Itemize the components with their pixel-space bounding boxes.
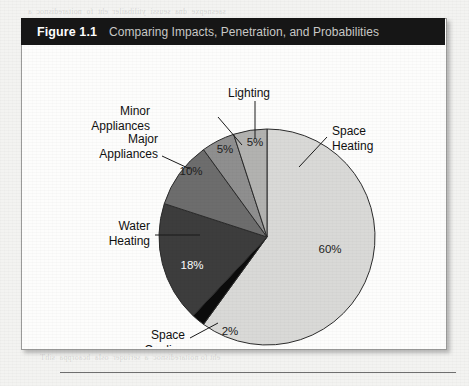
category-label-space-cooling-line2: Cooling <box>144 343 185 347</box>
category-label-major-appliances-line1: Major <box>128 132 158 146</box>
slice-value-minor-appliances: 5% <box>217 143 234 155</box>
figure-header-bar: Figure 1.1 Comparing Impacts, Penetratio… <box>21 18 445 45</box>
category-label-water-heating-line2: Heating <box>109 234 150 248</box>
slice-value-water-heating: 18% <box>180 259 203 271</box>
category-label-space-heating-line1: Space <box>332 124 366 138</box>
pie-slice-group <box>159 129 375 345</box>
category-label-minor-appliances-line2: Appliances <box>91 119 150 133</box>
page-horizontal-rule <box>60 372 456 373</box>
category-label-space-heating-line2: Heating <box>332 139 373 153</box>
category-label-lighting: Lighting <box>228 86 270 100</box>
figure-caption: Comparing Impacts, Penetration, and Prob… <box>109 25 379 39</box>
category-label-minor-appliances-line1: Minor <box>120 104 150 118</box>
figure-body: 60% 2% 18% 10% 5% 5% Space Heating Minor… <box>22 45 444 347</box>
slice-value-space-heating: 60% <box>318 243 341 255</box>
figure-number: Figure 1.1 <box>37 25 97 39</box>
slice-value-space-cooling: 2% <box>222 325 239 337</box>
category-label-space-cooling-line1: Space <box>151 328 185 342</box>
slice-value-major-appliances: 10% <box>179 165 202 177</box>
pie-chart: 60% 2% 18% 10% 5% 5% Space Heating Minor… <box>22 45 444 347</box>
bleed-through-text-bottom: eht fo noitaredisnoc a seriuqer osla hca… <box>40 352 222 365</box>
category-label-major-appliances-line2: Appliances <box>99 147 158 161</box>
figure-box: Figure 1.1 Comparing Impacts, Penetratio… <box>21 18 447 350</box>
bleed-through-text-top: saesnepxe dna seussi ytilibailer eht fo … <box>28 6 230 17</box>
leader-line-major-appliances <box>162 156 190 169</box>
category-label-water-heating-line1: Water <box>118 219 150 233</box>
